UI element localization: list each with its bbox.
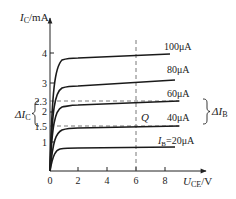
svg-text:3: 3 xyxy=(42,78,47,89)
svg-text:IB=20μA: IB=20μA xyxy=(157,135,195,148)
x-tick-labels: 0 2 4 6 8 xyxy=(48,175,168,186)
delta-ic-label: ΔIC xyxy=(14,108,30,122)
transistor-output-characteristics-chart: IC/mA UCE/V 4 3 2.3 2 1.5 1 0 2 4 6 8 10… xyxy=(0,0,236,199)
curve-ib-100 xyxy=(50,54,170,171)
svg-text:0: 0 xyxy=(48,175,53,186)
delta-ib-brace xyxy=(203,99,210,124)
curve-ib-80 xyxy=(50,80,175,171)
svg-text:1: 1 xyxy=(42,137,47,148)
x-axis-label: UCE/V xyxy=(183,175,212,189)
y-tick-labels: 4 3 2.3 2 1.5 1 xyxy=(35,48,48,148)
svg-text:8: 8 xyxy=(163,175,168,186)
y-axis-label: IC/mA xyxy=(19,11,49,25)
svg-text:2: 2 xyxy=(76,175,81,186)
svg-text:2: 2 xyxy=(42,106,47,117)
svg-text:100μA: 100μA xyxy=(164,41,192,52)
svg-text:4: 4 xyxy=(42,48,47,59)
svg-text:60μA: 60μA xyxy=(167,88,190,99)
curve-ib-20 xyxy=(50,147,175,171)
svg-text:6: 6 xyxy=(134,175,139,186)
svg-text:80μA: 80μA xyxy=(167,64,190,75)
svg-text:4: 4 xyxy=(105,175,110,186)
curve-labels: 100μA 80μA 60μA 40μA IB=20μA xyxy=(157,41,195,148)
svg-text:1.5: 1.5 xyxy=(35,121,48,132)
q-point-label: Q xyxy=(141,111,149,123)
svg-text:40μA: 40μA xyxy=(167,112,190,123)
delta-ib-label: ΔIB xyxy=(211,105,227,119)
x-ticks xyxy=(78,167,165,171)
